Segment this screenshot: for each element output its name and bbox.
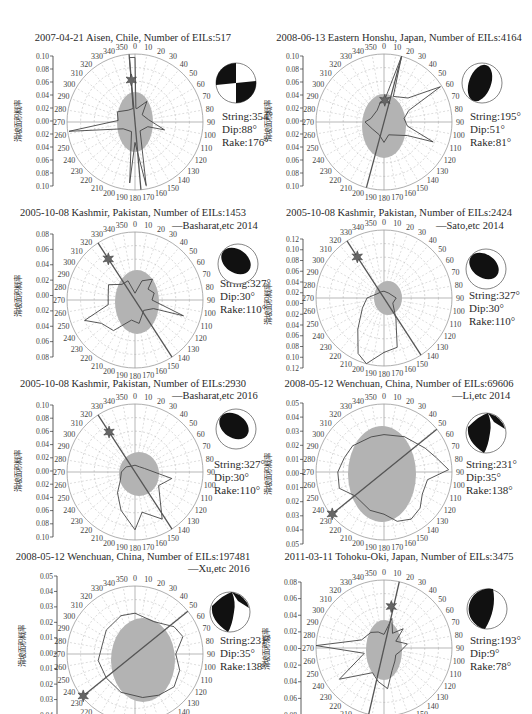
svg-text:210: 210: [340, 534, 352, 543]
svg-text:350: 350: [365, 43, 377, 52]
svg-text:0.02: 0.02: [36, 306, 49, 315]
svg-text:290: 290: [58, 442, 70, 451]
svg-text:190: 190: [365, 193, 377, 202]
svg-text:340: 340: [352, 223, 364, 232]
svg-text:110: 110: [450, 320, 462, 329]
svg-text:0.04: 0.04: [40, 587, 53, 596]
svg-text:230: 230: [71, 699, 83, 708]
svg-text:180: 180: [129, 194, 141, 203]
svg-text:0.04: 0.04: [284, 611, 297, 620]
svg-text:0.04: 0.04: [36, 260, 49, 269]
svg-text:190: 190: [116, 193, 128, 202]
svg-text:50: 50: [189, 247, 197, 256]
svg-text:240: 240: [312, 156, 324, 165]
svg-text:0.08: 0.08: [286, 342, 299, 351]
beachball-icon: [216, 242, 258, 284]
svg-text:0.12: 0.12: [286, 364, 299, 373]
svg-text:0.06: 0.06: [286, 331, 299, 340]
svg-text:0.05: 0.05: [286, 540, 299, 549]
y-axis-label: 滑坡面积概率: [13, 274, 23, 317]
svg-text:300: 300: [312, 430, 324, 439]
svg-text:190: 190: [365, 543, 377, 552]
svg-text:290: 290: [58, 270, 70, 279]
svg-text:10: 10: [393, 43, 401, 52]
svg-text:210: 210: [91, 534, 103, 543]
svg-text:10: 10: [393, 569, 401, 578]
svg-text:130: 130: [436, 167, 448, 176]
svg-text:190: 190: [116, 543, 128, 552]
svg-text:0.02: 0.02: [40, 680, 53, 689]
svg-text:20: 20: [157, 397, 165, 406]
svg-text:150: 150: [416, 360, 428, 369]
svg-text:0.10: 0.10: [36, 533, 49, 542]
svg-text:40: 40: [429, 410, 437, 419]
svg-text:150: 150: [167, 534, 179, 543]
svg-text:250: 250: [58, 676, 70, 685]
svg-text:0: 0: [382, 392, 386, 401]
svg-text:260: 260: [303, 481, 315, 490]
svg-text:160: 160: [155, 189, 167, 198]
svg-text:0.04: 0.04: [286, 525, 299, 534]
svg-text:270: 270: [302, 118, 314, 127]
svg-text:270: 270: [53, 296, 65, 305]
svg-text:70: 70: [202, 92, 210, 101]
svg-text:100: 100: [204, 663, 216, 672]
svg-text:70: 70: [202, 624, 210, 633]
svg-text:210: 210: [91, 184, 103, 193]
svg-text:80: 80: [206, 283, 214, 292]
svg-text:80: 80: [206, 105, 214, 114]
svg-text:330: 330: [91, 52, 103, 61]
svg-text:120: 120: [444, 332, 456, 341]
svg-text:0.06: 0.06: [36, 337, 49, 346]
svg-text:140: 140: [178, 526, 190, 535]
svg-text:280: 280: [54, 455, 66, 464]
epicenter-star-icon: [104, 426, 114, 438]
svg-text:10: 10: [144, 221, 152, 230]
svg-text:10: 10: [393, 219, 401, 228]
svg-text:40: 40: [180, 592, 188, 601]
svg-text:0.08: 0.08: [286, 169, 299, 178]
svg-text:10: 10: [144, 43, 152, 52]
svg-text:0.04: 0.04: [286, 143, 299, 152]
svg-text:0.03: 0.03: [286, 511, 299, 520]
svg-text:10: 10: [144, 393, 152, 402]
polar-chart-5: 0102030405060708090100110120130140150160…: [263, 392, 506, 553]
svg-text:240: 240: [312, 506, 324, 515]
svg-text:300: 300: [63, 80, 75, 89]
svg-text:270: 270: [53, 650, 65, 659]
polar-chart-7: 0102030405060708090100110120130140150160…: [261, 568, 507, 714]
svg-text:90: 90: [207, 468, 215, 477]
svg-text:0.00: 0.00: [36, 291, 49, 300]
svg-text:60: 60: [197, 80, 205, 89]
svg-text:50: 50: [438, 595, 446, 604]
svg-text:250: 250: [307, 144, 319, 153]
svg-text:250: 250: [58, 144, 70, 153]
svg-text:130: 130: [187, 699, 199, 708]
svg-text:130: 130: [187, 167, 199, 176]
svg-text:20: 20: [406, 47, 414, 56]
svg-text:170: 170: [142, 371, 154, 380]
svg-text:0.08: 0.08: [36, 169, 49, 178]
svg-text:0.08: 0.08: [284, 711, 297, 714]
svg-text:260: 260: [54, 309, 66, 318]
svg-text:0.00: 0.00: [36, 117, 49, 126]
svg-text:250: 250: [307, 494, 319, 503]
svg-text:90: 90: [207, 118, 215, 127]
svg-text:0.04: 0.04: [284, 677, 297, 686]
svg-text:140: 140: [427, 702, 439, 711]
beachball-icon: [464, 247, 506, 289]
svg-text:20: 20: [406, 397, 414, 406]
svg-text:40: 40: [180, 238, 188, 247]
svg-text:60: 60: [197, 612, 205, 621]
svg-text:210: 210: [340, 710, 352, 714]
svg-text:0.06: 0.06: [36, 78, 49, 87]
svg-text:190: 190: [116, 371, 128, 380]
svg-text:240: 240: [312, 682, 324, 691]
svg-text:0: 0: [382, 568, 386, 577]
svg-text:0.03: 0.03: [40, 695, 53, 704]
beachball-icon: [214, 407, 256, 449]
svg-text:220: 220: [80, 176, 92, 185]
svg-text:120: 120: [444, 506, 456, 515]
svg-text:70: 70: [202, 442, 210, 451]
svg-text:230: 230: [71, 345, 83, 354]
